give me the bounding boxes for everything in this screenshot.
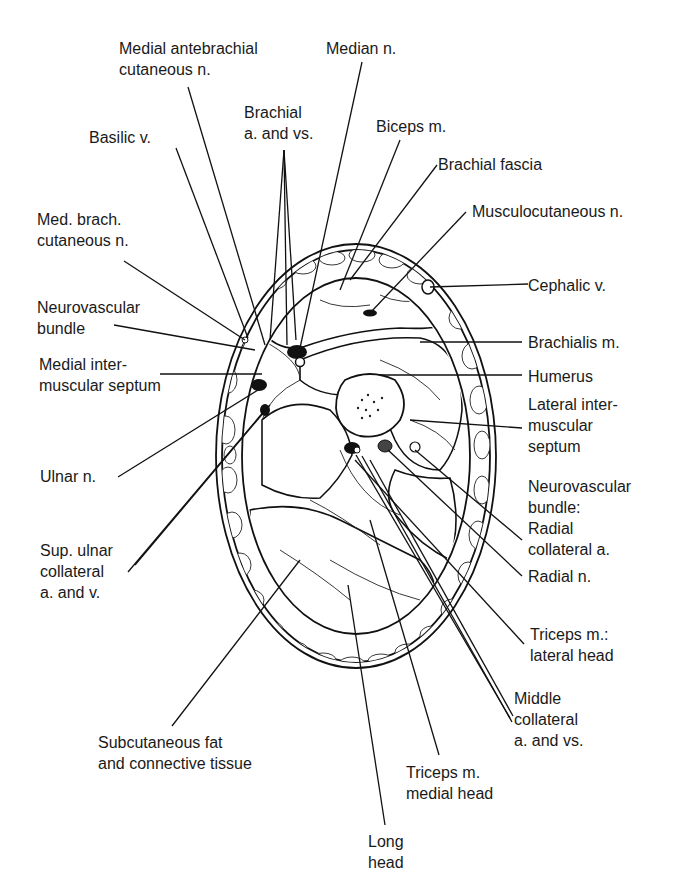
label-sup-ulnar-collateral-a-and-v: Sup. ulnar collateral a. and v.	[40, 540, 113, 603]
median-nerve	[296, 358, 305, 367]
label-triceps-medial-head: Triceps m. medial head	[406, 762, 493, 804]
label-basilic-v: Basilic v.	[89, 127, 151, 148]
label-median-n: Median n.	[326, 38, 396, 59]
ulnar-nerve	[251, 379, 267, 391]
radial-nerve	[378, 440, 392, 452]
label-ulnar-n: Ulnar n.	[40, 466, 96, 487]
label-musculocutaneous-n: Musculocutaneous n.	[472, 201, 623, 222]
label-middle-collateral-a-and-vs: Middle collateral a. and vs.	[514, 688, 583, 751]
label-humerus: Humerus	[528, 366, 593, 387]
brachial-artery-veins	[287, 345, 307, 359]
label-brachial-fascia: Brachial fascia	[438, 154, 542, 175]
label-brachial-a-and-vs: Brachial a. and vs.	[244, 102, 313, 144]
label-med-brach-cutaneous-n: Med. brach. cutaneous n.	[37, 209, 129, 251]
label-cephalic-v: Cephalic v.	[528, 275, 606, 296]
label-neurovascular-bundle-radial-collateral-a: Neurovascular bundle: Radial collateral …	[528, 476, 631, 560]
label-biceps-m: Biceps m.	[376, 116, 446, 137]
label-lateral-intermuscular-septum: Lateral inter- muscular septum	[528, 394, 618, 457]
label-radial-n: Radial n.	[528, 566, 591, 587]
triceps-lateral-head-muscle	[389, 470, 456, 560]
label-neurovascular-bundle: Neurovascular bundle	[37, 297, 140, 339]
label-long-head: Long head	[368, 831, 404, 873]
label-triceps-lateral-head: Triceps m.: lateral head	[530, 624, 614, 666]
humerus-bone	[336, 374, 404, 437]
label-medial-intermuscular-septum: Medial inter- muscular septum	[39, 354, 161, 396]
label-medial-antebrachial-cutaneous-n: Medial antebrachial cutaneous n.	[119, 38, 258, 80]
label-subcutaneous-fat-connective-tissue: Subcutaneous fat and connective tissue	[98, 732, 252, 774]
label-brachialis-m: Brachialis m.	[528, 332, 620, 353]
